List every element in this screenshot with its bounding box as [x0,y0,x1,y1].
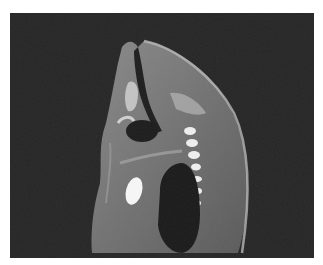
mri-scan-image [10,13,314,258]
mri-anatomy-graphic [10,13,314,258]
